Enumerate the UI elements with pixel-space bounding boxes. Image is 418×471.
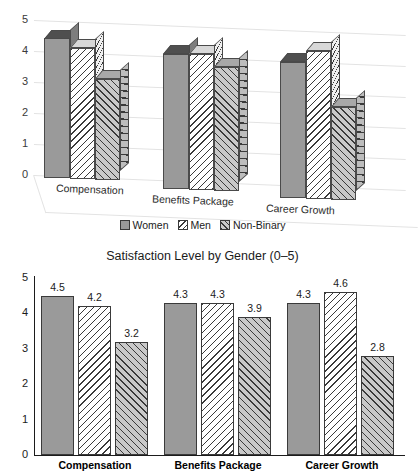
category-label-2d-career: Career Growth [272,459,412,471]
bar3d-front-face [44,38,70,178]
bar2d-benefits-women[interactable] [164,303,197,455]
bar3d-front-face [70,48,95,179]
y-tick-3d-2: 2 [14,106,28,118]
category-label-3d-benefits: Benefits Package [152,193,234,208]
value-label-compensation-women: 4.5 [41,281,74,293]
category-label-3d-compensation: Compensation [56,182,124,196]
value-label-career-nonbinary: 2.8 [361,341,394,353]
bar3d-benefits-women[interactable] [163,45,189,189]
value-label-career-women: 4.3 [287,288,320,300]
bar3d-side-face [120,62,129,171]
gridline-5 [34,20,406,36]
y-tick-3d-5: 5 [14,13,28,25]
bar3d-front-face [189,54,214,190]
bar3d-benefits-men[interactable] [189,45,214,190]
bar3d-compensation-men[interactable] [70,39,95,179]
y-tick-2d-1: 1 [14,413,28,425]
y-axis-line [34,276,35,456]
y-tick-2d-5: 5 [14,271,28,283]
y-tick-3d-4: 4 [14,44,28,56]
bar2d-career-women[interactable] [287,303,320,455]
value-label-compensation-men: 4.2 [78,291,111,303]
y-tick-2d-3: 3 [14,342,28,354]
bar2d-compensation-men[interactable] [78,306,111,455]
value-label-career-men: 4.6 [324,277,357,289]
legend-label-women: Women [133,219,169,231]
bar2d-career-men[interactable] [324,292,357,455]
bar3d-front-face [214,67,239,191]
legend-label-nonbinary: Non-Binary [233,219,286,231]
bar3d-career-women[interactable] [280,53,306,198]
bar2d-career-nonbinary[interactable] [361,356,394,455]
bar3d-side-face [239,50,248,182]
y-tick-3d-0: 0 [14,168,28,180]
category-label-2d-compensation: Compensation [25,459,165,471]
bar-chart-3d: 5 4 3 2 1 0 Compensation [0,0,405,240]
legend-label-men: Men [191,219,211,231]
bar3d-front-face [280,62,306,198]
legend-swatch-women-icon [120,220,130,230]
value-label-benefits-nonbinary: 3.9 [238,302,271,314]
bar3d-career-men[interactable] [306,42,331,199]
bar3d-front-face [306,51,331,199]
legend-item-women[interactable]: Women [120,219,169,231]
value-label-benefits-men: 4.3 [201,288,234,300]
chart-title: Satisfaction Level by Gender (0–5) [0,249,405,263]
legend-swatch-nonbinary-icon [220,220,230,230]
x-axis-line [34,455,405,456]
chart-legend: Women Men Non-Binary [0,219,405,231]
bar3d-career-nonbinary[interactable] [331,98,356,200]
bar3d-compensation-nonbinary[interactable] [95,70,120,180]
bar3d-front-face [95,79,120,180]
bar3d-front-face [163,54,189,189]
floor-edge-right [33,175,46,213]
y-tick-3d-3: 3 [14,75,28,87]
value-label-compensation-nonbinary: 3.2 [115,327,148,339]
bar3d-benefits-nonbinary[interactable] [214,58,239,191]
y-tick-2d-4: 4 [14,306,28,318]
y-tick-2d-2: 2 [14,377,28,389]
bar3d-compensation-women[interactable] [44,30,70,178]
bar-chart-2d: Satisfaction Level by Gender (0–5) 5 4 3… [0,240,405,470]
bar2d-benefits-men[interactable] [201,303,234,455]
y-tick-3d-1: 1 [14,137,28,149]
bar2d-compensation-nonbinary[interactable] [115,342,148,455]
legend-item-nonbinary[interactable]: Non-Binary [220,219,286,231]
bar2d-compensation-women[interactable] [41,296,74,455]
legend-item-men[interactable]: Men [178,219,211,231]
bar3d-side-face [356,90,365,191]
category-label-3d-career: Career Growth [266,202,335,216]
bar2d-benefits-nonbinary[interactable] [238,317,271,455]
legend-swatch-men-icon [178,220,188,230]
bar3d-front-face [331,107,356,200]
value-label-benefits-women: 4.3 [164,288,197,300]
category-label-2d-benefits: Benefits Package [148,459,288,471]
